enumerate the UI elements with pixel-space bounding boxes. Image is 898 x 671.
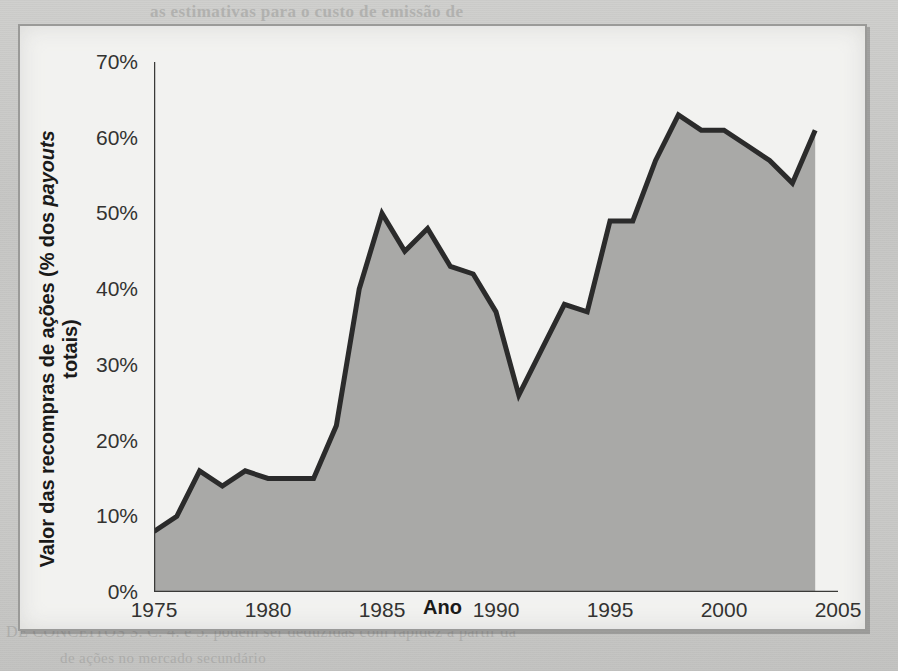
- ghost-text-top: as estimativas para o custo de emissão d…: [150, 2, 463, 22]
- y-axis-title-pre: Valor das recompras de ações (% dos: [36, 207, 58, 568]
- chart-figure-frame: Valor das recompras de ações (% dos payo…: [18, 24, 867, 631]
- area-fill: [154, 115, 815, 592]
- y-axis-tick-label: 20%: [96, 429, 138, 453]
- y-axis-tick-label: 40%: [96, 277, 138, 301]
- y-axis-tick-label: 70%: [96, 50, 138, 74]
- y-axis-tick-labels: 0%10%20%30%40%50%60%70%: [72, 62, 138, 592]
- y-axis-tick-label: 60%: [96, 126, 138, 150]
- page-background: as estimativas para o custo de emissão d…: [0, 0, 898, 671]
- y-axis-title-italic: payouts: [36, 131, 58, 207]
- y-axis-tick-label: 30%: [96, 353, 138, 377]
- ghost-text-bottom-second: de ações no mercado secundário: [60, 650, 266, 667]
- area-chart-svg: [154, 62, 838, 592]
- x-axis-title: Ano: [20, 596, 865, 619]
- plot-area: [154, 62, 838, 592]
- y-axis-tick-label: 10%: [96, 504, 138, 528]
- y-axis-tick-label: 50%: [96, 201, 138, 225]
